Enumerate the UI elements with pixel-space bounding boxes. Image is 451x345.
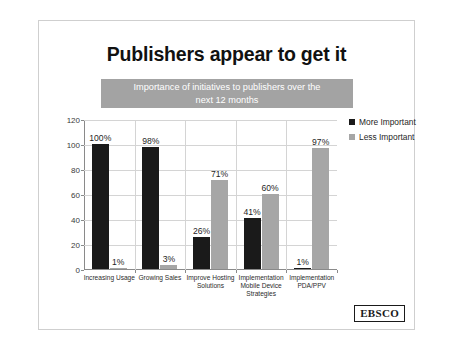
y-axis-tick-label: 60: [71, 191, 80, 200]
bar: [193, 237, 210, 270]
y-axis-tick-mark: [81, 145, 84, 146]
page-title: Publishers appear to get it: [39, 43, 414, 66]
category-separator: [135, 120, 136, 270]
bar: [211, 180, 228, 269]
bar-value-label: 98%: [142, 136, 159, 146]
gridline: [84, 145, 337, 146]
bar-value-label: 71%: [211, 169, 228, 179]
y-axis-tick-mark: [81, 195, 84, 196]
bar: [312, 148, 329, 269]
legend-label: Less Important: [359, 132, 414, 142]
x-axis-tick-mark: [236, 270, 237, 273]
x-axis-tick-mark: [286, 270, 287, 273]
ebsco-logo: EBSCO: [354, 305, 405, 322]
y-axis-tick-label: 120: [67, 116, 80, 125]
legend-item-more-important: More Important: [349, 117, 415, 127]
plot-area: 020406080100120100%1%Increasing Usage98%…: [84, 120, 337, 270]
y-axis-tick-mark: [81, 220, 84, 221]
y-axis-tick-mark: [81, 245, 84, 246]
gridline: [84, 120, 337, 121]
y-axis-tick-label: 80: [71, 166, 80, 175]
y-axis-tick-label: 100: [67, 141, 80, 150]
bar-value-label: 26%: [193, 226, 210, 236]
bar-value-label: 1%: [296, 257, 308, 267]
y-axis-tick-mark: [81, 170, 84, 171]
bar-value-label: 3%: [163, 254, 175, 264]
bar-value-label: 41%: [243, 207, 260, 217]
category-separator: [185, 120, 186, 270]
x-axis-tick-mark: [337, 270, 338, 273]
legend-label: More Important: [359, 117, 416, 127]
bar-value-label: 1%: [112, 257, 124, 267]
category-separator: [236, 120, 237, 270]
y-axis-tick-label: 40: [71, 216, 80, 225]
subtitle-banner: Importance of initiatives to publishers …: [101, 79, 353, 108]
legend-swatch-icon: [349, 134, 355, 140]
x-axis-tick-mark: [135, 270, 136, 273]
bar: [262, 194, 279, 269]
bar: [92, 144, 109, 269]
y-axis-tick-mark: [81, 270, 84, 271]
y-axis-tick-mark: [81, 120, 84, 121]
category-separator: [286, 120, 287, 270]
x-axis-line: [84, 269, 337, 270]
bar-value-label: 60%: [261, 183, 278, 193]
bar-value-label: 97%: [312, 137, 329, 147]
bar: [110, 268, 127, 270]
bar: [142, 147, 159, 270]
chart-legend: More Important Less Important: [349, 117, 415, 147]
x-axis-tick-mark: [185, 270, 186, 273]
bar: [244, 218, 261, 269]
y-axis-tick-label: 20: [71, 241, 80, 250]
bar: [160, 265, 177, 269]
subtitle-line-2: next 12 months: [101, 94, 353, 107]
subtitle-line-1: Importance of initiatives to publishers …: [101, 81, 353, 94]
x-axis-category-label: Implementation PDA/PPV: [281, 274, 343, 290]
bar: [294, 268, 311, 270]
legend-swatch-icon: [349, 119, 355, 125]
slide: Publishers appear to get it Importance o…: [38, 20, 415, 330]
bar-value-label: 100%: [89, 133, 111, 143]
legend-item-less-important: Less Important: [349, 132, 415, 142]
